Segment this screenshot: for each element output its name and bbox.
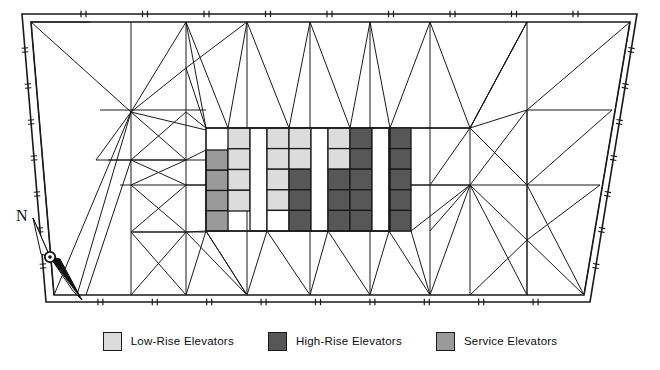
column-tick	[605, 192, 611, 193]
column-tick	[34, 196, 40, 197]
elevator-shaft-cell	[328, 190, 350, 211]
legend-item-service: Service Elevators	[436, 332, 557, 351]
column-tick	[592, 267, 598, 268]
elevator-shaft-cell	[267, 128, 289, 149]
column-tick	[28, 124, 34, 125]
column-tick	[598, 231, 604, 232]
elevator-shaft-cell	[267, 190, 289, 211]
elevator-shaft-cell	[228, 149, 250, 170]
elevator-shaft-cell	[289, 169, 311, 190]
legend-swatch-high-rise	[268, 332, 287, 351]
elevator-shaft-cell	[328, 210, 350, 231]
north-label: N	[16, 207, 28, 225]
elevator-shaft-cell	[267, 149, 289, 170]
elevator-shaft-cell	[350, 169, 372, 190]
column-tick	[616, 123, 622, 124]
column-tick	[617, 120, 623, 121]
elevator-shaft-cell	[206, 150, 228, 170]
elevator-core	[206, 128, 411, 231]
column-tick	[22, 48, 28, 49]
elevator-shaft-cell	[350, 128, 372, 149]
elevator-shaft-cell	[389, 149, 411, 170]
column-tick	[40, 268, 46, 269]
elevator-shaft-cell	[267, 210, 289, 231]
elevator-shaft-cell	[289, 128, 311, 149]
legend-label-low-rise: Low-Rise Elevators	[131, 335, 234, 348]
column-tick	[25, 88, 31, 89]
core-corridor	[250, 128, 267, 231]
column-tick	[611, 156, 617, 157]
column-tick	[28, 120, 34, 121]
elevator-shaft-cell	[350, 190, 372, 211]
column-tick	[31, 156, 37, 157]
elevator-shaft-cell	[228, 190, 250, 211]
floor-plan-canvas	[0, 0, 660, 370]
core-corridor	[311, 128, 328, 231]
column-tick	[25, 84, 31, 85]
column-tick	[599, 228, 605, 229]
legend-label-high-rise: High-Rise Elevators	[296, 335, 402, 348]
column-tick	[610, 159, 616, 160]
elevator-shaft-cell	[228, 170, 250, 191]
elevator-shaft-cell	[206, 170, 228, 190]
elevator-shaft-cell	[267, 169, 289, 190]
elevator-shaft-cell	[328, 169, 350, 190]
elevator-shaft-cell	[289, 190, 311, 211]
column-tick	[604, 195, 610, 196]
plan-legend: Low-Rise Elevators High-Rise Elevators S…	[0, 325, 660, 357]
elevator-shaft-cell	[328, 128, 350, 149]
column-tick	[22, 52, 28, 53]
compass-pivot-core	[48, 255, 52, 259]
legend-item-low-rise: Low-Rise Elevators	[103, 332, 234, 351]
column-tick	[622, 87, 628, 88]
elevator-shaft-cell	[328, 149, 350, 170]
elevator-shaft-cell	[289, 149, 311, 170]
elevator-shaft-cell	[389, 190, 411, 211]
elevator-shaft-cell	[389, 128, 411, 149]
column-tick	[593, 264, 599, 265]
elevator-shaft-cell	[206, 211, 228, 231]
elevator-shaft-cell	[206, 191, 228, 211]
elevator-shaft-cell	[228, 128, 250, 149]
elevator-shaft-cell	[389, 169, 411, 190]
column-tick	[34, 192, 40, 193]
legend-swatch-service	[436, 332, 455, 351]
legend-swatch-low-rise	[103, 332, 122, 351]
column-tick	[40, 264, 46, 265]
elevator-shaft-cell	[350, 210, 372, 231]
column-tick	[31, 160, 37, 161]
elevator-shaft-cell	[350, 149, 372, 170]
column-tick	[628, 51, 634, 52]
elevator-shaft-cell	[389, 210, 411, 231]
elevator-shaft-cell	[289, 210, 311, 231]
legend-label-service: Service Elevators	[464, 335, 557, 348]
core-corridor	[372, 128, 389, 231]
legend-item-high-rise: High-Rise Elevators	[268, 332, 402, 351]
column-tick	[628, 48, 634, 49]
column-tick	[622, 84, 628, 85]
floor-plan-diagram: N Low-Rise Elevators High-Rise Elevators…	[0, 0, 660, 370]
